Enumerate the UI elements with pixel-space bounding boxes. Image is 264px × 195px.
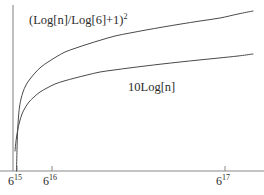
curve-label-lower-text: 10Log[n] [128,80,175,94]
x-tick-label-0: 615 [8,175,22,187]
chart-figure: (Log[n]/Log[6]+1)2 10Log[n] 615 616 617 [0,0,264,195]
curve-label-upper-exponent: 2 [124,12,128,21]
curve-label-lower: 10Log[n] [128,81,175,94]
x-tick-label-2: 617 [216,175,230,187]
curve-label-upper: (Log[n]/Log[6]+1)2 [29,14,128,27]
plot-area [0,0,264,195]
x-tick-label-1-exponent: 16 [49,173,57,182]
x-tick-label-2-exponent: 17 [222,173,230,182]
x-tick-label-1: 616 [43,175,57,187]
curve-label-upper-text: (Log[n]/Log[6]+1) [29,13,124,27]
x-tick-label-0-exponent: 15 [14,173,22,182]
x-axis-ticks [17,166,225,171]
curve-lower-ten-log [15,54,253,151]
